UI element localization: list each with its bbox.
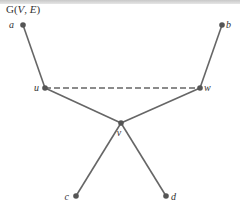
- graph-diagram: abuwvcd: [0, 0, 240, 209]
- node-label-c: c: [65, 191, 70, 202]
- node-c: [73, 193, 79, 199]
- edge-v-d: [121, 123, 166, 196]
- edge-a-u: [23, 25, 45, 88]
- edges: [23, 25, 222, 196]
- node-w: [197, 85, 203, 91]
- node-d: [163, 193, 169, 199]
- edge-v-c: [76, 123, 121, 196]
- edge-b-w: [200, 25, 222, 88]
- edge-w-v: [121, 88, 200, 123]
- edge-u-v: [45, 88, 121, 123]
- nodes: [20, 22, 225, 199]
- node-b: [219, 22, 225, 28]
- node-label-u: u: [34, 82, 39, 93]
- node-labels: abuwvcd: [9, 19, 231, 202]
- node-u: [42, 85, 48, 91]
- node-label-d: d: [171, 191, 177, 202]
- node-label-b: b: [226, 19, 231, 30]
- node-a: [20, 22, 26, 28]
- node-label-v: v: [117, 127, 122, 138]
- node-label-w: w: [204, 82, 211, 93]
- node-label-a: a: [9, 19, 14, 30]
- node-v: [118, 120, 124, 126]
